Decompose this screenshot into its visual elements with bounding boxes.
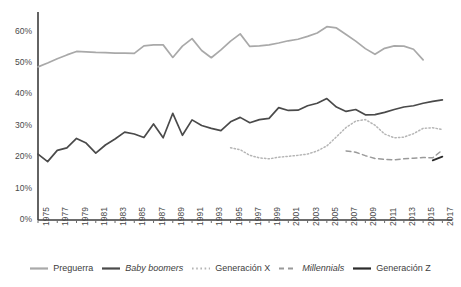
series-line <box>38 99 442 162</box>
legend-swatch-icon <box>353 264 371 273</box>
y-axis-tick-label: 40% <box>0 89 32 98</box>
x-axis-tick-label: 2007 <box>350 207 359 226</box>
legend-swatch-icon <box>102 264 120 273</box>
x-axis-tick-label: 1991 <box>196 207 205 226</box>
x-axis-tick-label: 1995 <box>235 207 244 226</box>
x-axis-tick-label: 2003 <box>312 207 321 226</box>
legend-swatch-icon <box>192 264 210 273</box>
legend-item[interactable]: Baby boomers <box>102 263 183 273</box>
legend-item[interactable]: Millennials <box>279 263 344 273</box>
x-axis-tick-label: 1989 <box>177 207 186 226</box>
x-axis-tick-label: 1985 <box>138 207 147 226</box>
x-axis-tick-label: 2015 <box>427 207 436 226</box>
legend-label: Millennials <box>302 263 344 273</box>
x-axis-tick-label: 1977 <box>61 207 70 226</box>
legend-label: Baby boomers <box>125 263 183 273</box>
chart-container: 0%10%20%30%40%50%60% 1975197719791981198… <box>0 0 461 287</box>
legend-item[interactable]: Generación Z <box>353 263 431 273</box>
x-axis-tick-label: 2005 <box>331 207 340 226</box>
chart-axes <box>38 12 452 223</box>
x-axis-tick-label: 1993 <box>215 207 224 226</box>
legend-label: Generación Z <box>376 263 431 273</box>
x-axis-tick-label: 1981 <box>100 207 109 226</box>
y-axis-tick-label: 20% <box>0 152 32 161</box>
x-axis-tick-label: 2001 <box>292 207 301 226</box>
x-axis-tick-label: 2017 <box>446 207 455 226</box>
legend-item[interactable]: Preguerra <box>30 263 93 273</box>
y-axis-tick-label: 0% <box>0 215 32 224</box>
series-line <box>38 27 423 67</box>
series-line <box>231 120 443 159</box>
x-axis-tick-label: 1987 <box>158 207 167 226</box>
line-chart-plot <box>0 0 461 287</box>
legend-label: Preguerra <box>53 263 93 273</box>
y-axis-tick-label: 30% <box>0 121 32 130</box>
x-axis-tick-label: 1997 <box>254 207 263 226</box>
legend-swatch-icon <box>30 264 48 273</box>
chart-series-layer <box>38 27 442 162</box>
legend-swatch-icon <box>279 264 297 273</box>
x-axis-tick-label: 2011 <box>389 208 398 226</box>
legend-item[interactable]: Generación X <box>192 263 270 273</box>
x-axis-tick-label: 1979 <box>81 207 90 226</box>
chart-legend: PreguerraBaby boomersGeneración XMillenn… <box>0 258 461 278</box>
x-axis-tick-label: 1999 <box>273 207 282 226</box>
series-line <box>346 150 442 160</box>
y-axis-tick-label: 10% <box>0 184 32 193</box>
x-axis-tick-label: 2013 <box>408 207 417 226</box>
y-axis-tick-label: 60% <box>0 27 32 36</box>
y-axis-tick-label: 50% <box>0 58 32 67</box>
legend-label: Generación X <box>215 263 270 273</box>
x-axis-tick-label: 1983 <box>119 207 128 226</box>
x-axis-tick-label: 1975 <box>42 207 51 226</box>
x-axis-tick-label: 2009 <box>369 207 378 226</box>
